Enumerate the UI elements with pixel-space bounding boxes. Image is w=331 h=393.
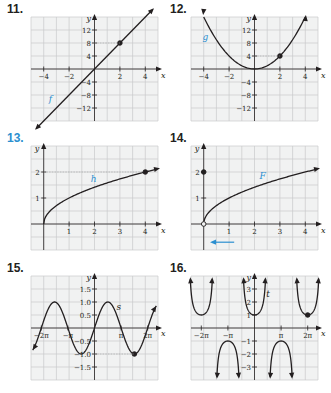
svg-text:x: x (321, 71, 326, 80)
function-label-g: g (202, 32, 208, 42)
svg-text:−2: −2 (64, 73, 74, 81)
svg-text:−2: −2 (224, 73, 234, 81)
svg-text:y: y (86, 14, 92, 23)
svg-text:x: x (321, 226, 326, 235)
svg-text:3: 3 (247, 286, 251, 294)
svg-text:12: 12 (82, 27, 91, 35)
svg-text:8: 8 (247, 40, 251, 48)
svg-text:4: 4 (87, 53, 92, 61)
svg-text:y: y (246, 14, 252, 23)
svg-text:−4: −4 (199, 73, 210, 81)
svg-text:2: 2 (252, 228, 256, 236)
svg-text:2: 2 (118, 73, 122, 81)
svg-text:2: 2 (195, 169, 199, 177)
svg-text:4: 4 (247, 53, 252, 61)
svg-text:2: 2 (278, 73, 282, 81)
filled-point (201, 170, 206, 175)
svg-text:8: 8 (87, 40, 91, 48)
graph-14-piecewise-F: 123412yxF (191, 146, 318, 250)
svg-text:−1: −1 (241, 338, 251, 346)
svg-text:4: 4 (143, 73, 148, 81)
svg-text:1: 1 (67, 228, 71, 236)
problem-number-11: 11. (7, 2, 23, 16)
svg-text:2: 2 (92, 228, 96, 236)
svg-text:12: 12 (242, 27, 251, 35)
svg-text:−8: −8 (241, 92, 251, 100)
function-label-s: s (117, 302, 122, 312)
svg-text:3: 3 (278, 228, 282, 236)
svg-text:−3: −3 (241, 364, 251, 372)
svg-text:1: 1 (35, 195, 39, 203)
svg-text:−12: −12 (76, 105, 91, 113)
svg-text:−4: −4 (241, 79, 252, 87)
problem-number-16: 16. (170, 261, 187, 275)
svg-text:2: 2 (35, 169, 39, 177)
filled-point (278, 54, 283, 59)
graph-13-sqrt-h: 123412yxh (31, 146, 158, 250)
function-label-t: t (266, 289, 270, 299)
svg-text:4: 4 (143, 228, 148, 236)
function-label-h: h (91, 174, 97, 184)
svg-text:1: 1 (195, 195, 199, 203)
svg-text:−1.5: −1.5 (74, 364, 91, 372)
graph-15-sine-s: −2π−ππ2π−1.5−1.0−0.50.51.01.5yxs (31, 276, 158, 380)
open-point (201, 222, 206, 227)
function-label-F: F (259, 171, 267, 181)
svg-text:x: x (161, 226, 166, 235)
svg-text:1: 1 (227, 228, 231, 236)
svg-text:4: 4 (303, 73, 308, 81)
filled-point (305, 313, 310, 318)
svg-text:x: x (161, 71, 166, 80)
problem-number-14: 14. (170, 131, 187, 145)
svg-text:y: y (194, 144, 200, 153)
svg-text:x: x (321, 329, 326, 338)
svg-text:x: x (161, 329, 166, 338)
graph-16-secant-t: −2π−ππ2π−3−2−1123yxt (191, 276, 318, 380)
svg-text:2π: 2π (303, 332, 312, 340)
svg-text:y: y (246, 273, 252, 282)
svg-text:−1.0: −1.0 (74, 351, 91, 359)
filled-point (143, 170, 148, 175)
problem-number-15: 15. (7, 261, 24, 275)
arrow-head-icon (201, 9, 206, 15)
svg-text:−8: −8 (81, 92, 91, 100)
svg-text:−2π: −2π (34, 332, 49, 340)
graph-12-parabola-g: −4−224−12−8−44812yxg (191, 17, 318, 121)
svg-text:2: 2 (247, 299, 251, 307)
svg-text:0.5: 0.5 (80, 312, 91, 320)
svg-text:1.5: 1.5 (80, 286, 91, 294)
svg-text:y: y (34, 144, 40, 153)
svg-text:−π: −π (223, 332, 234, 340)
problem-number-12: 12. (170, 2, 187, 16)
svg-text:−2: −2 (241, 351, 251, 359)
svg-text:1.0: 1.0 (80, 299, 91, 307)
svg-text:y: y (86, 273, 92, 282)
svg-text:−4: −4 (39, 73, 50, 81)
svg-text:3: 3 (118, 228, 122, 236)
svg-text:−12: −12 (236, 105, 251, 113)
problem-number-13: 13. (7, 131, 24, 145)
svg-text:−2π: −2π (194, 332, 209, 340)
graph-11-linear-f: −4−224−12−8−44812yxf (31, 17, 158, 121)
svg-text:−4: −4 (81, 79, 92, 87)
svg-text:4: 4 (303, 228, 308, 236)
svg-text:π: π (279, 332, 284, 340)
